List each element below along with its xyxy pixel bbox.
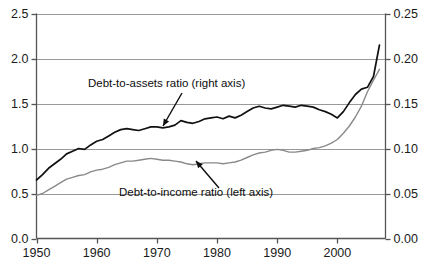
left-axis-tick-label: 0.5 <box>11 187 28 201</box>
left-axis-tick-label: 1.0 <box>11 142 28 156</box>
x-axis-tick-label: 1980 <box>203 246 231 260</box>
x-axis-tick-label: 1960 <box>83 246 111 260</box>
x-axis-tick-label: 1950 <box>23 246 51 260</box>
x-axis-tick-label: 2000 <box>323 246 351 260</box>
chart-container: 2.52.01.51.00.50.0 0.250.200.150.100.050… <box>0 0 426 274</box>
right-axis-tick-label: 0.25 <box>394 7 418 21</box>
right-axis-tick-label: 0.15 <box>394 97 418 111</box>
left-axis-tick-label: 1.5 <box>11 97 28 111</box>
left-axis-tick-label: 0.0 <box>11 232 28 246</box>
right-axis-tick-label: 0.20 <box>394 52 418 66</box>
right-axis-tick-label: 0.10 <box>394 142 418 156</box>
annotation-label-debt-to-income: Debt-to-income ratio (left axis) <box>119 186 273 198</box>
dual-axis-line-chart: 2.52.01.51.00.50.0 0.250.200.150.100.050… <box>0 0 426 274</box>
right-axis-tick-label: 0.05 <box>394 187 418 201</box>
chart-background <box>0 0 426 274</box>
x-axis-tick-label: 1990 <box>263 246 291 260</box>
left-axis-tick-label: 2.0 <box>11 52 28 66</box>
annotation-label-debt-to-assets: Debt-to-assets ratio (right axis) <box>88 77 245 89</box>
left-axis-tick-label: 2.5 <box>11 7 28 21</box>
right-axis-tick-label: 0.00 <box>394 232 418 246</box>
x-axis-tick-label: 1970 <box>143 246 171 260</box>
